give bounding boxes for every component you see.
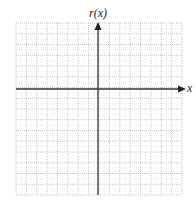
coordinate-grid — [0, 0, 196, 205]
gridlines — [16, 23, 182, 195]
x-axis-label: x — [187, 81, 192, 96]
axes — [16, 22, 186, 195]
y-axis-label: r(x) — [89, 6, 107, 21]
